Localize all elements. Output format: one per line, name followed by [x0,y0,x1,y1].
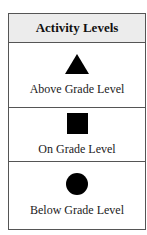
square-icon [67,113,88,134]
triangle-icon [65,54,89,74]
table-header: Activity Levels [9,14,145,43]
circle-icon [66,173,88,195]
row-label: Below Grade Level [30,203,124,218]
table-row: On Grade Level [9,108,145,162]
table-row: Below Grade Level [9,162,145,229]
table-row: Above Grade Level [9,43,145,108]
activity-levels-table: Activity Levels Above Grade Level On Gra… [8,13,146,230]
row-label: Above Grade Level [30,82,125,97]
row-label: On Grade Level [38,142,115,157]
